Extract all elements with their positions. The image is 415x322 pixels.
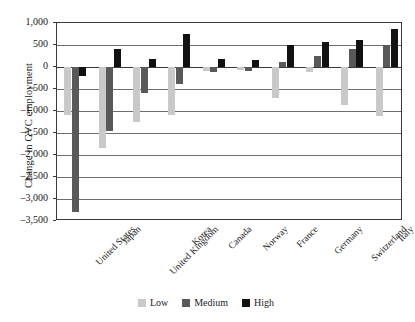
y-tick-mark bbox=[53, 220, 56, 221]
bar-medium-switzerland bbox=[349, 49, 356, 67]
legend-label-medium: Medium bbox=[194, 297, 228, 308]
bar-low-italy bbox=[376, 67, 383, 116]
x-tick-label-japan: Japan bbox=[120, 224, 142, 246]
gridline--1500 bbox=[57, 133, 401, 134]
bar-medium-united-kingdom bbox=[141, 67, 148, 93]
gridline--3000 bbox=[57, 199, 401, 200]
bar-low-korea bbox=[168, 67, 175, 115]
bar-medium-italy bbox=[383, 45, 390, 67]
gridline-500 bbox=[57, 45, 401, 46]
x-tick-label-switzerland: Switzerland bbox=[369, 224, 408, 263]
x-tick-label-france: France bbox=[294, 224, 319, 249]
x-tick-label-united-states: United States bbox=[94, 224, 137, 267]
gridline--2500 bbox=[57, 177, 401, 178]
bar-high-korea bbox=[183, 34, 190, 67]
legend-item-medium[interactable]: Medium bbox=[182, 297, 228, 308]
y-tick-label: 1,000 bbox=[0, 17, 48, 27]
bar-low-norway bbox=[237, 67, 244, 70]
x-tick-label-norway: Norway bbox=[261, 224, 290, 253]
legend-label-high: High bbox=[254, 297, 274, 308]
bar-high-united-states bbox=[79, 67, 86, 76]
y-tick-label: –3,500 bbox=[0, 215, 48, 225]
bar-low-united-kingdom bbox=[133, 67, 140, 122]
legend-item-high[interactable]: High bbox=[242, 297, 274, 308]
bar-low-united-states bbox=[64, 67, 71, 115]
bar-medium-united-states bbox=[72, 67, 79, 212]
bar-medium-france bbox=[279, 62, 286, 67]
plot-area bbox=[56, 22, 402, 220]
x-tick-label-korea: Korea bbox=[190, 224, 213, 247]
legend-swatch-medium-icon bbox=[182, 299, 190, 307]
bar-medium-germany bbox=[314, 56, 321, 67]
x-tick-label-canada: Canada bbox=[226, 224, 253, 251]
bar-high-united-kingdom bbox=[149, 59, 156, 67]
bar-low-germany bbox=[306, 67, 313, 72]
bar-high-japan bbox=[114, 49, 121, 67]
chart-legend: Low Medium High bbox=[0, 297, 412, 308]
legend-item-low[interactable]: Low bbox=[138, 297, 168, 308]
x-tick-label-germany: Germany bbox=[332, 224, 364, 256]
bar-low-canada bbox=[203, 67, 210, 71]
legend-label-low: Low bbox=[150, 297, 168, 308]
y-axis-title: Change in GVC employment bbox=[23, 36, 34, 216]
bar-medium-canada bbox=[210, 67, 217, 72]
bar-high-norway bbox=[252, 60, 259, 67]
bar-low-france bbox=[272, 67, 279, 98]
gridline--2000 bbox=[57, 155, 401, 156]
x-tick-label-italy: Italy bbox=[396, 224, 415, 243]
legend-swatch-low-icon bbox=[138, 299, 146, 307]
bar-low-japan bbox=[99, 67, 106, 148]
bar-high-italy bbox=[391, 29, 398, 67]
bar-high-switzerland bbox=[356, 40, 363, 67]
legend-swatch-high-icon bbox=[242, 299, 250, 307]
bar-high-france bbox=[287, 45, 294, 67]
bar-medium-norway bbox=[245, 67, 252, 71]
x-tick-label-united-kingdom: United Kingdom bbox=[167, 224, 219, 276]
bar-high-canada bbox=[218, 59, 225, 67]
bar-medium-korea bbox=[176, 67, 183, 84]
bar-low-switzerland bbox=[341, 67, 348, 105]
bar-high-germany bbox=[322, 42, 329, 67]
bar-medium-japan bbox=[106, 67, 113, 131]
